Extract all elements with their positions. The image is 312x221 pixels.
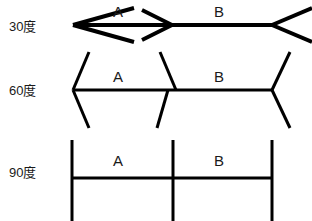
row-30-segment-label-b: B [214,3,224,20]
row-60-graphic [73,52,290,128]
figure-canvas [0,0,312,221]
row-60-segment-label-b: B [214,68,224,85]
row-60-left-fin-upper [73,52,89,90]
row-30-segment-label-a: A [113,3,123,20]
row-90-graphic [72,140,272,221]
row-30-right-fin-upper [272,8,312,25]
row-60-mid-fin-upper [160,52,176,90]
row-30-right-fin-lower [272,25,312,42]
row-60-right-fin-lower [272,90,290,128]
row-60-mid-fin-lower [157,90,168,128]
row-30-mid-fin-upper [142,10,172,25]
row-60-right-fin-upper [272,52,290,90]
row-90-segment-label-a: A [113,152,123,169]
row-label-30: 30度 [9,16,36,35]
row-90-segment-label-b: B [214,152,224,169]
row-60-segment-label-a: A [113,68,123,85]
row-30-mid-fin-lower [142,25,172,40]
row-30-left-fin-upper [73,8,134,25]
row-30-graphic [73,8,312,42]
row-30-left-fin-lower [73,25,134,42]
row-label-60: 60度 [9,80,36,99]
muller-lyer-figure: 30度 60度 90度 A B A B A B [0,0,312,221]
row-label-90: 90度 [9,162,36,181]
row-60-left-fin-lower [73,90,89,128]
